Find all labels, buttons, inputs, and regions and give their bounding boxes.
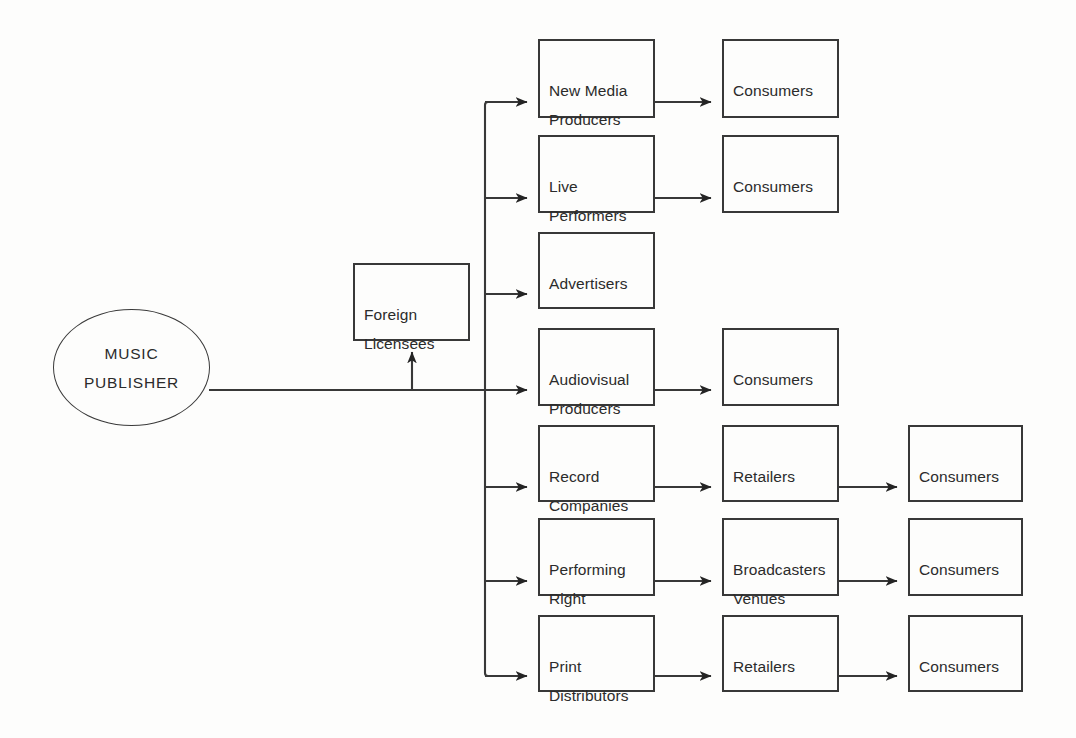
node-foreign-licensees[interactable]: Foreign Licensees — [353, 263, 470, 341]
node-row6-consumers[interactable]: Consumers — [908, 518, 1023, 596]
node-new-media-producers-label: New Media Producers — [549, 82, 627, 128]
node-print-distributors-label: Print Distributors — [549, 658, 629, 704]
node-row2-consumers-label: Consumers — [733, 178, 813, 195]
node-row5-consumers[interactable]: Consumers — [908, 425, 1023, 502]
node-record-companies-label: Record Companies — [549, 468, 628, 514]
node-row7-consumers-label: Consumers — [919, 658, 999, 675]
node-audiovisual-producers-label: Audiovisual Producers — [549, 371, 629, 417]
node-music-publisher-label: MUSIC PUBLISHER — [84, 339, 179, 397]
node-row7-retailers[interactable]: Retailers — [722, 615, 839, 692]
node-print-distributors[interactable]: Print Distributors — [538, 615, 655, 692]
node-audiovisual-producers[interactable]: Audiovisual Producers — [538, 328, 655, 406]
node-live-performers[interactable]: Live Performers — [538, 135, 655, 213]
node-live-performers-label: Live Performers — [549, 178, 627, 224]
node-row5-consumers-label: Consumers — [919, 468, 999, 485]
node-music-publisher[interactable]: MUSIC PUBLISHER — [53, 309, 210, 426]
node-row7-consumers[interactable]: Consumers — [908, 615, 1023, 692]
node-advertisers-label: Advertisers — [549, 275, 628, 292]
node-new-media-producers[interactable]: New Media Producers — [538, 39, 655, 118]
node-row6-consumers-label: Consumers — [919, 561, 999, 578]
node-row4-consumers-label: Consumers — [733, 371, 813, 388]
node-record-companies[interactable]: Record Companies — [538, 425, 655, 502]
node-foreign-licensees-label: Foreign Licensees — [364, 306, 435, 352]
wire-trunk — [485, 102, 503, 676]
node-row1-consumers[interactable]: Consumers — [722, 39, 839, 118]
node-row4-consumers[interactable]: Consumers — [722, 328, 839, 406]
node-performing-right[interactable]: Performing Right — [538, 518, 655, 596]
node-row2-consumers[interactable]: Consumers — [722, 135, 839, 213]
node-row1-consumers-label: Consumers — [733, 82, 813, 99]
node-row7-retailers-label: Retailers — [733, 658, 795, 675]
diagram-canvas: MUSIC PUBLISHER Foreign Licensees New Me… — [0, 0, 1076, 738]
node-advertisers[interactable]: Advertisers — [538, 232, 655, 309]
node-performing-right-label: Performing Right — [549, 561, 626, 607]
node-row5-retailers[interactable]: Retailers — [722, 425, 839, 502]
node-broadcasters-venues-label: Broadcasters Venues — [733, 561, 826, 607]
node-row5-retailers-label: Retailers — [733, 468, 795, 485]
node-broadcasters-venues[interactable]: Broadcasters Venues — [722, 518, 839, 596]
